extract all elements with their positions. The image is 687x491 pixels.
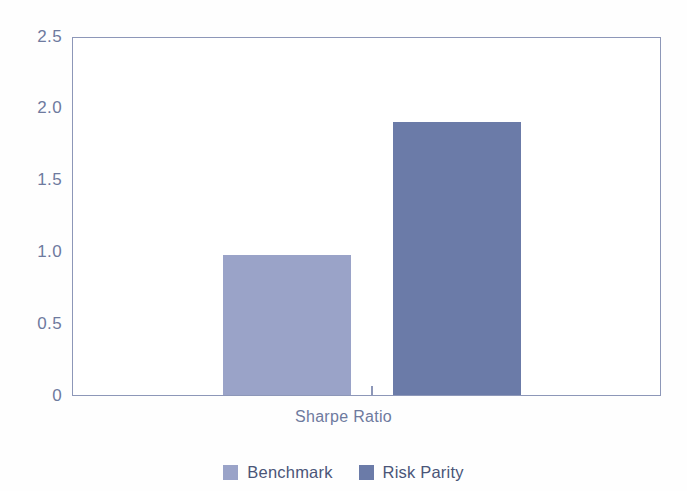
y-tick-label-2-5: 2.5 [8, 27, 62, 47]
legend-swatch-risk-parity [359, 465, 374, 480]
legend-item-benchmark[interactable]: Benchmark [223, 463, 332, 482]
y-tick-label-2-0: 2.0 [8, 98, 62, 118]
y-tick-label-0-5: 0.5 [8, 314, 62, 334]
chart-legend: Benchmark Risk Parity [0, 463, 687, 482]
bar-benchmark[interactable] [223, 255, 351, 395]
legend-item-risk-parity[interactable]: Risk Parity [359, 463, 464, 482]
bar-chart-figure: 2.5 2.0 1.5 1.0 0.5 0 Sharpe Ratio Bench… [0, 0, 687, 491]
y-tick-label-0: 0 [8, 386, 62, 406]
y-tick-label-1-0: 1.0 [8, 242, 62, 262]
plot-area [72, 37, 661, 396]
legend-label-benchmark: Benchmark [247, 463, 332, 482]
x-axis-tick-mark [371, 386, 373, 395]
x-axis-label: Sharpe Ratio [0, 408, 687, 426]
legend-swatch-benchmark [223, 465, 238, 480]
legend-label-risk-parity: Risk Parity [383, 463, 464, 482]
y-tick-label-1-5: 1.5 [8, 170, 62, 190]
bar-risk-parity[interactable] [393, 122, 521, 395]
